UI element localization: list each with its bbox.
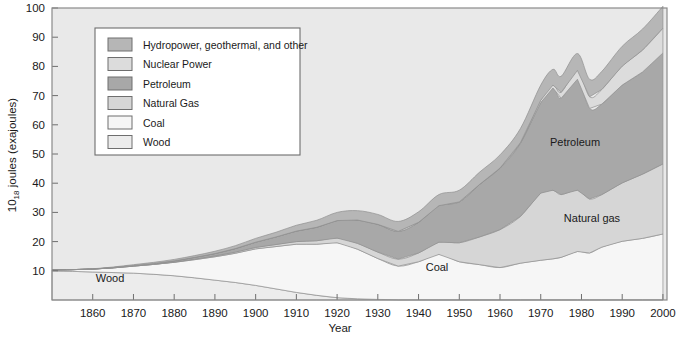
x-tick-label-1880: 1880 [161, 307, 187, 319]
y-tick-label-10: 10 [32, 265, 45, 277]
legend-label-1: Nuclear Power [143, 58, 212, 70]
x-tick-label-1860: 1860 [80, 307, 106, 319]
x-axis-title: Year [328, 322, 351, 334]
legend-swatch-1 [108, 58, 132, 71]
y-tick-label-100: 100 [26, 2, 45, 14]
legend-swatch-4 [108, 116, 132, 129]
legend-swatch-0 [108, 38, 132, 51]
petroleum-label: Petroleum [550, 136, 600, 148]
x-tick-label-1960: 1960 [487, 307, 513, 319]
legend-label-2: Petroleum [143, 78, 191, 90]
x-tick-label-1910: 1910 [284, 307, 310, 319]
wood-label: Wood [96, 272, 125, 284]
x-tick-label-1980: 1980 [569, 307, 595, 319]
x-tick-label-2000: 2000 [650, 307, 676, 319]
natural-gas-label: Natural gas [564, 212, 621, 224]
y-tick-label-50: 50 [32, 148, 45, 160]
x-tick-label-1890: 1890 [202, 307, 228, 319]
energy-consumption-area-chart: 102030405060708090100 186018701880189019… [0, 0, 681, 340]
legend-swatch-5 [108, 136, 132, 149]
y-tick-label-70: 70 [32, 90, 45, 102]
x-tick-label-1870: 1870 [121, 307, 147, 319]
x-tick-label-1940: 1940 [406, 307, 432, 319]
x-tick-label-1990: 1990 [609, 307, 635, 319]
y-tick-label-30: 30 [32, 206, 45, 218]
y-tick-label-90: 90 [32, 31, 45, 43]
x-axis-tick-labels: 1860187018801890190019101920193019401950… [80, 307, 676, 319]
x-tick-label-1920: 1920 [324, 307, 350, 319]
y-tick-label-60: 60 [32, 119, 45, 131]
legend-label-3: Natural Gas [143, 97, 199, 109]
y-tick-label-80: 80 [32, 60, 45, 72]
legend-swatch-3 [108, 97, 132, 110]
y-axis-title-rest: joules (exajoules) [6, 98, 18, 191]
x-tick-label-1900: 1900 [243, 307, 269, 319]
x-tick-label-1950: 1950 [446, 307, 472, 319]
chart-legend: Hydropower, geothermal, and otherNuclear… [95, 28, 308, 155]
legend-label-5: Wood [143, 136, 170, 148]
legend-label-4: Coal [143, 117, 165, 129]
y-tick-label-40: 40 [32, 177, 45, 189]
y-tick-label-20: 20 [32, 236, 45, 248]
y-axis-title-main: 10 [6, 199, 18, 212]
chart-svg: 102030405060708090100 186018701880189019… [0, 0, 681, 340]
x-tick-label-1970: 1970 [528, 307, 554, 319]
coal-label: Coal [426, 261, 449, 273]
legend-label-0: Hydropower, geothermal, and other [143, 39, 308, 51]
x-tick-label-1930: 1930 [365, 307, 391, 319]
legend-swatch-2 [108, 77, 132, 90]
